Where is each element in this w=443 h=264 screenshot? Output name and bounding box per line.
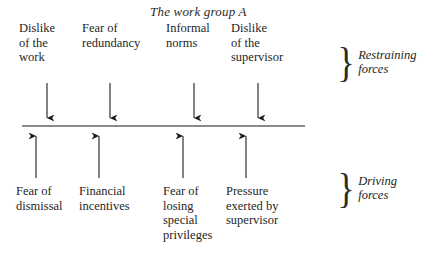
driving-forces-group: } Driving forces xyxy=(336,172,397,204)
equilibrium-line xyxy=(22,125,305,127)
force-field-diagram: The work group A Dislike of the work Fea… xyxy=(0,0,443,264)
diagram-title: The work group A xyxy=(150,4,247,20)
driving-force-label-1: Fear of dismissal xyxy=(16,184,63,213)
force-arrows xyxy=(0,0,443,264)
restraining-force-label-2: Fear of redundancy xyxy=(82,21,140,50)
brace-icon: } xyxy=(338,46,355,78)
restraining-force-label-4: Dislike of the supervisor xyxy=(231,21,283,65)
driving-force-label-4: Pressure exerted by supervisor xyxy=(226,184,278,228)
driving-forces-label: Driving forces xyxy=(358,174,397,202)
restraining-forces-group: } Restraining forces xyxy=(336,46,417,78)
restraining-force-label-3: Informal norms xyxy=(166,21,210,50)
driving-force-label-2: Financial incentives xyxy=(79,184,130,213)
brace-icon: } xyxy=(338,172,355,204)
driving-force-label-3: Fear of losing special privileges xyxy=(163,184,212,242)
restraining-forces-label: Restraining forces xyxy=(358,48,416,76)
restraining-force-label-1: Dislike of the work xyxy=(19,21,55,65)
